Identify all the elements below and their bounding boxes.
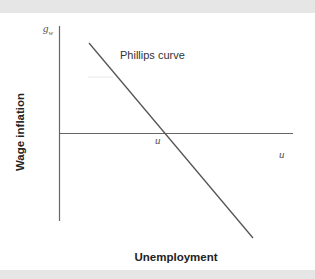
x-axis-label: Unemployment <box>134 251 217 263</box>
y-axis-label: Wage inflation <box>14 93 26 171</box>
phillips-curve-label: Phillips curve <box>120 49 185 61</box>
y-axis-symbol: gw <box>43 22 53 37</box>
x-axis-symbol: u <box>279 148 285 160</box>
intersection-label: u <box>155 134 161 146</box>
phillips-curve-line <box>89 43 253 238</box>
